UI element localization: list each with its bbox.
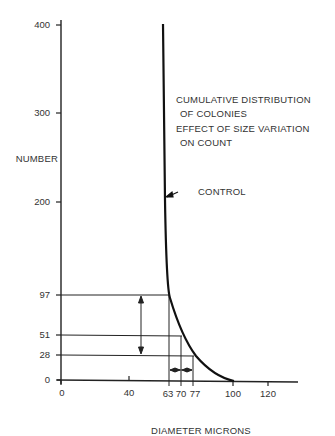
svg-text:100: 100 — [225, 388, 241, 399]
svg-text:300: 300 — [34, 107, 50, 118]
svg-text:28: 28 — [39, 349, 50, 360]
svg-text:0: 0 — [59, 387, 64, 398]
svg-text:63: 63 — [163, 388, 174, 399]
control-curve — [163, 24, 234, 381]
x-tick-labels: 0 40 63 70 77 100 120 — [59, 387, 276, 399]
chart-subtitle-line-1: EFFECT OF SIZE VARIATION — [176, 123, 310, 134]
chart-canvas: 400 300 200 97 51 28 0 NUMBER 0 40 63 70… — [0, 0, 335, 436]
chart-subtitle-line-2: ON COUNT — [180, 137, 232, 148]
y-ticks — [56, 25, 61, 380]
svg-text:200: 200 — [34, 196, 50, 207]
svg-text:400: 400 — [34, 19, 50, 30]
svg-text:40: 40 — [124, 387, 135, 398]
reference-lines — [61, 295, 194, 356]
x-axis-label: DIAMETER MICRONS — [151, 425, 251, 436]
y-axis-label: NUMBER — [16, 153, 58, 164]
svg-text:120: 120 — [260, 388, 276, 399]
svg-text:0: 0 — [45, 374, 50, 385]
svg-text:70: 70 — [176, 388, 187, 399]
svg-text:97: 97 — [39, 289, 50, 300]
x-axis — [57, 380, 298, 382]
svg-text:51: 51 — [39, 329, 50, 340]
chart-title-line-2: OF COLONIES — [180, 108, 247, 119]
control-pointer-arrow — [166, 192, 178, 197]
svg-text:77: 77 — [190, 388, 201, 399]
vertical-double-arrow — [139, 296, 144, 354]
y-tick-labels: 400 300 200 97 51 28 0 — [34, 19, 50, 385]
chart-title-line-1: CUMULATIVE DISTRIBUTION — [176, 94, 311, 105]
control-label: CONTROL — [198, 186, 246, 197]
